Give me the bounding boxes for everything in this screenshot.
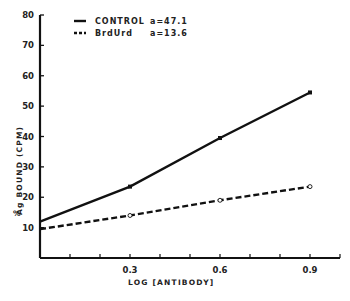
data-point-marker bbox=[128, 185, 132, 189]
series-line-control bbox=[40, 92, 310, 221]
y-axis-title-percent: % bbox=[13, 209, 22, 218]
x-tick-label: 0.3 bbox=[122, 265, 137, 275]
data-point-marker bbox=[218, 198, 222, 202]
legend-label-brdurd: BrdUrd bbox=[95, 29, 133, 38]
series-line-brdurd bbox=[40, 187, 310, 230]
y-tick-label: 10 bbox=[22, 223, 34, 233]
y-tick-label: 70 bbox=[22, 40, 34, 50]
series-group bbox=[40, 90, 312, 229]
y-tick-label: 50 bbox=[22, 101, 34, 111]
x-tick-label: 0.6 bbox=[212, 265, 227, 275]
legend-value-brdurd: a=13.6 bbox=[150, 29, 188, 38]
x-tick-label: 0.9 bbox=[302, 265, 317, 275]
y-tick-label: 80 bbox=[22, 10, 34, 20]
data-point-marker bbox=[308, 185, 312, 189]
chart: 1020304050607080 0.30.60.9 CONTROL BrdUr… bbox=[0, 0, 350, 301]
data-point-marker bbox=[128, 213, 132, 217]
legend-label-control: CONTROL bbox=[95, 17, 145, 26]
legend-value-control: a=47.1 bbox=[150, 17, 188, 26]
y-tick-label: 60 bbox=[22, 71, 34, 81]
x-axis-title: LOG [ANTIBODY] bbox=[128, 278, 215, 287]
data-point-marker bbox=[218, 136, 222, 140]
legend: CONTROL BrdUrd a=47.1 a=13.6 bbox=[74, 17, 188, 38]
data-point-marker bbox=[308, 90, 312, 94]
y-axis-title-main: Ag BOUND (CPM) bbox=[15, 126, 24, 215]
